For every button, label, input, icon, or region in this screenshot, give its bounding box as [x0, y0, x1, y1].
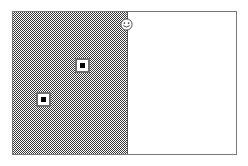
open-region[interactable]: Open region — [128, 12, 236, 154]
node-marker[interactable]: Node 1 — [75, 58, 90, 73]
node-marker-label: Node 1 — [77, 60, 78, 61]
node-marker-core — [80, 63, 85, 68]
open-region-label: Open region — [128, 12, 129, 13]
smiley-face-icon[interactable]: Smiley — [120, 18, 133, 31]
node-marker-core — [41, 97, 46, 102]
node-marker-label: Node 2 — [38, 94, 39, 95]
node-marker[interactable]: Node 2 — [36, 92, 51, 107]
app-root: Shaded region Open region Smiley Node 1 … — [0, 0, 248, 166]
shaded-region[interactable]: Shaded region — [13, 12, 128, 154]
shaded-region-label: Shaded region — [13, 12, 14, 13]
canvas-frame: Shaded region Open region Smiley Node 1 … — [12, 11, 237, 155]
